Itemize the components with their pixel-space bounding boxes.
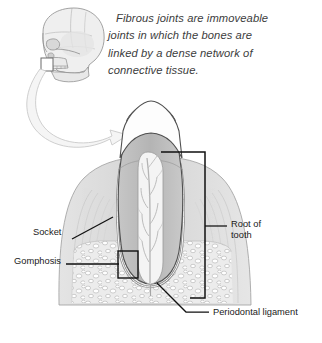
caption-paragraph: Fibrous joints are immoveable joints in … (108, 10, 298, 79)
caption-line-2: joints in which the bones are (108, 27, 298, 44)
label-socket: Socket (33, 227, 61, 238)
label-periodontal-ligament: Periodontal ligament (213, 307, 298, 318)
label-root-of-tooth-line-1: Root of (231, 219, 291, 230)
caption-line-3: linked by a dense network of (108, 45, 298, 62)
caption-line-1: Fibrous joints are immoveable (108, 10, 298, 27)
skull-region-highlight-box (41, 58, 53, 71)
label-gomphosis: Gomphosis (14, 256, 61, 267)
label-root-of-tooth: Root of tooth (231, 219, 291, 242)
label-root-of-tooth-line-2: tooth (231, 230, 291, 241)
caption-line-4: connective tissue. (108, 62, 298, 79)
